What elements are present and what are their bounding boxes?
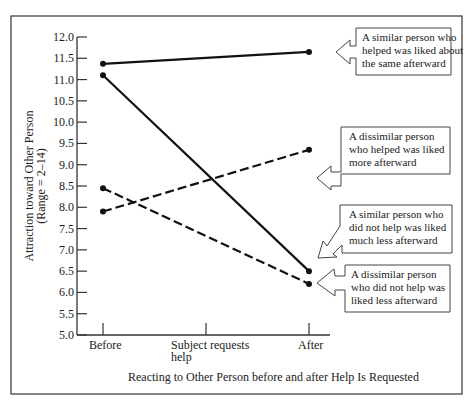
y-tick-label: 8.0 bbox=[59, 200, 74, 214]
x-tick-help: help bbox=[171, 350, 192, 364]
y-tick-label: 5.5 bbox=[59, 307, 74, 321]
data-point bbox=[100, 72, 106, 78]
data-point bbox=[306, 49, 312, 55]
annotation-line: helped was liked about bbox=[362, 44, 463, 57]
annotation-line: the same afterward bbox=[362, 57, 463, 70]
y-axis-sublabel: (Range = 2–14) bbox=[34, 148, 48, 223]
y-tick-label: 12.0 bbox=[53, 30, 74, 44]
y-tick-label: 6.0 bbox=[59, 285, 74, 299]
annotation-line: who helped was liked bbox=[349, 143, 445, 156]
y-axis-label-group: Attraction toward Other Person (Range = … bbox=[22, 111, 48, 262]
data-point bbox=[306, 268, 312, 274]
y-tick-label: 7.0 bbox=[59, 243, 74, 257]
annotation-dissimilar-helped: A dissimilar person who helped was liked… bbox=[349, 130, 445, 169]
y-tick-label: 8.5 bbox=[59, 179, 74, 193]
x-tick-before: Before bbox=[89, 338, 122, 352]
y-tick-label: 5.0 bbox=[59, 328, 74, 342]
series-line-4 bbox=[103, 188, 309, 284]
annotation-line: A dissimilar person bbox=[351, 268, 445, 281]
annotation-line: much less afterward bbox=[349, 234, 446, 247]
y-tick-label: 11.0 bbox=[53, 73, 74, 87]
y-tick-label: 10.0 bbox=[53, 115, 74, 129]
y-ticks: 5.05.56.06.57.07.58.08.59.09.510.010.511… bbox=[53, 30, 87, 342]
annotation-line: A similar person who bbox=[349, 208, 446, 221]
y-tick-label: 7.5 bbox=[59, 222, 74, 236]
series-line-1 bbox=[103, 52, 309, 64]
annotation-similar-helped: A similar person who helped was liked ab… bbox=[362, 31, 463, 70]
annotation-line: who did not help was bbox=[351, 281, 445, 294]
y-tick-label: 10.5 bbox=[53, 94, 74, 108]
x-tick-after: After bbox=[298, 338, 323, 352]
y-tick-label: 11.5 bbox=[53, 51, 74, 65]
y-tick-label: 6.5 bbox=[59, 264, 74, 278]
y-tick-label: 9.0 bbox=[59, 158, 74, 172]
data-point bbox=[306, 281, 312, 287]
annotation-line: did not help was liked bbox=[349, 221, 446, 234]
annotation-similar-not-helped: A similar person who did not help was li… bbox=[349, 208, 446, 247]
y-tick-label: 9.5 bbox=[59, 136, 74, 150]
data-point bbox=[306, 147, 312, 153]
annotation-line: liked less afterward bbox=[351, 294, 445, 307]
data-point bbox=[100, 209, 106, 215]
annotation-line: A similar person who bbox=[362, 31, 463, 44]
annotation-line: more afterward bbox=[349, 156, 445, 169]
x-axis-label: Reacting to Other Person before and afte… bbox=[128, 370, 419, 384]
annotation-dissimilar-not-helped: A dissimilar person who did not help was… bbox=[351, 268, 445, 307]
series-line-3 bbox=[103, 75, 309, 271]
data-point bbox=[100, 185, 106, 191]
annotation-line: A dissimilar person bbox=[349, 130, 445, 143]
series-lines bbox=[100, 49, 312, 287]
data-point bbox=[100, 61, 106, 67]
